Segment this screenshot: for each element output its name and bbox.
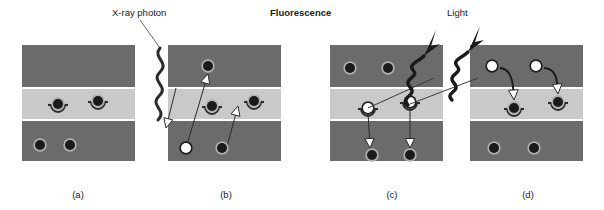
electron-marker: [383, 63, 393, 73]
electron-marker: [367, 150, 377, 160]
band-diagram-svg: [0, 0, 604, 210]
incident-xray-photon-path: [156, 48, 163, 120]
panel-c-valence-band: [330, 121, 443, 161]
panel-a-conduction-band: [22, 45, 135, 87]
panel-label-c: (c): [380, 190, 404, 200]
panel-label-d: (d): [516, 190, 540, 200]
panel-a-trap-band: [22, 89, 135, 119]
electron-marker: [217, 143, 227, 153]
electron-marker: [35, 140, 45, 150]
electron-marker: [509, 103, 519, 113]
electron-marker: [249, 96, 259, 106]
panel-label-b: (b): [214, 190, 238, 200]
hole-marker: [487, 61, 497, 71]
emitted-light-photon-2: [450, 52, 468, 100]
hole-marker: [181, 143, 191, 153]
panel-b-valence-band: [168, 121, 281, 161]
electron-marker: [553, 97, 563, 107]
light-label: Light: [447, 8, 468, 18]
panel-b-conduction-band: [168, 45, 281, 87]
electron-marker: [65, 140, 75, 150]
hole-marker: [531, 61, 541, 71]
electron-marker: [53, 99, 63, 109]
fluorescence-label: Fluorescence: [270, 8, 331, 18]
panel-c-trap-band: [330, 89, 443, 119]
electron-marker: [93, 96, 103, 106]
electron-marker: [529, 143, 539, 153]
electron-marker: [207, 101, 217, 111]
panel-label-a: (a): [66, 190, 90, 200]
xray-photon-label: X-ray photon: [112, 8, 166, 18]
xray-leader-line: [140, 20, 160, 48]
electron-marker: [405, 150, 415, 160]
panel-b-trap-band: [168, 89, 281, 119]
electron-marker: [203, 61, 213, 71]
figure-root: X-ray photon Fluorescence Light (a) (b) …: [0, 0, 604, 210]
panel-d-valence-band: [470, 121, 583, 161]
electron-marker: [345, 63, 355, 73]
electron-marker: [489, 143, 499, 153]
